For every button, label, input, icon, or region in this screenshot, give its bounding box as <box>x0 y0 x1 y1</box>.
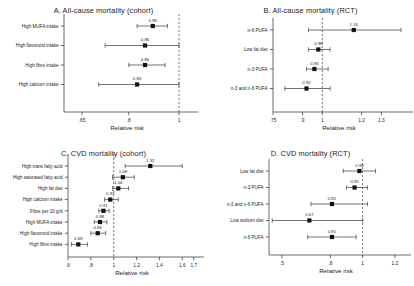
point-estimate-marker <box>76 242 80 246</box>
point-estimate-marker <box>101 209 105 213</box>
row-label: High calcium intake <box>23 197 63 202</box>
point-estimate-label: 0.89 <box>149 18 158 23</box>
row-label: High flavonoid intake <box>16 43 59 48</box>
point-estimate-marker <box>312 67 316 71</box>
point-estimate-label: 1.08 <box>119 169 128 174</box>
panel-b-plot: .75.911.21.3Relative riskn-6 PUFA1.16Low… <box>207 0 414 143</box>
point-estimate-marker <box>121 175 125 179</box>
point-estimate-marker <box>108 198 112 202</box>
point-estimate-label: 0.81 <box>328 196 337 201</box>
row-label: n-3 PUFA <box>244 185 265 190</box>
point-estimate-marker <box>352 185 356 189</box>
point-estimate-marker <box>330 235 334 239</box>
point-estimate-marker <box>98 220 102 224</box>
point-estimate-label: 0.88 <box>96 214 105 219</box>
point-estimate-marker <box>96 231 100 235</box>
row-label: Fibre per 10 g/d <box>30 209 63 214</box>
x-axis-tick-label: .8 <box>328 261 332 266</box>
row-label: Low sodium diet <box>230 218 264 223</box>
point-estimate-label: 0.69 <box>74 236 83 241</box>
x-axis-tick-label: .75 <box>270 118 277 123</box>
x-axis-tick-label: .65 <box>79 118 86 123</box>
point-estimate-label: 0.67 <box>305 212 314 217</box>
row-label: High fibre intake <box>25 63 59 68</box>
point-estimate-marker <box>143 63 147 67</box>
x-axis-tick-label: 1.2 <box>392 261 399 266</box>
point-estimate-label: 0.96 <box>310 61 319 66</box>
row-label: High MUFA intake <box>22 24 59 29</box>
point-estimate-marker <box>316 47 320 51</box>
row-label: n-6 PUFA <box>244 235 265 240</box>
row-label: n-6 PUFA <box>248 28 269 33</box>
point-estimate-marker <box>151 24 155 28</box>
point-estimate-label: 1.04 <box>114 180 123 185</box>
point-estimate-label: 0.86 <box>94 225 103 230</box>
point-estimate-label: 0.86 <box>141 37 150 42</box>
row-label: Low fat diet <box>240 169 264 174</box>
panel-a: A. All-cause mortality (cohort) .65.81Re… <box>0 0 207 143</box>
point-estimate-label: 0.91 <box>99 203 108 208</box>
x-axis-tick-label: .8 <box>89 263 93 268</box>
row-label: High fat diet <box>38 186 63 191</box>
x-axis-tick-label: .6 <box>66 263 70 268</box>
point-estimate-marker <box>357 169 361 173</box>
x-axis-tick-label: 1.3 <box>378 118 385 123</box>
point-estimate-label: 0.98 <box>355 163 364 168</box>
row-label: High trans fatty acid <box>22 164 63 169</box>
x-axis-tick-label: .9 <box>301 118 305 123</box>
point-estimate-marker <box>307 218 311 222</box>
point-estimate-label: 0.95 <box>350 179 359 184</box>
x-axis-tick-label: 1.2 <box>358 118 365 123</box>
panel-c-plot: .6.811.21.41.61.7Relative riskHigh trans… <box>0 143 207 286</box>
row-label: High MUFA intake <box>26 220 63 225</box>
point-estimate-label: 0.98 <box>314 41 323 46</box>
point-estimate-marker <box>352 28 356 32</box>
point-estimate-label: 1.32 <box>146 158 155 163</box>
forest-plot-figure: A. All-cause mortality (cohort) .65.81Re… <box>0 0 414 286</box>
point-estimate-marker <box>304 86 308 90</box>
x-axis-tick-label: 1 <box>112 263 115 268</box>
point-estimate-label: 0.81 <box>328 229 337 234</box>
row-label: n-3 and n-6 PUFA <box>231 86 269 91</box>
row-label: High flavonoid intake <box>20 231 63 236</box>
x-axis-tick-label: .8 <box>127 118 131 123</box>
panel-b: B. All-cause mortality (RCT) .75.911.21.… <box>207 0 414 143</box>
x-axis-tick-label: 1.4 <box>156 263 163 268</box>
point-estimate-label: 0.97 <box>106 191 115 196</box>
point-estimate-label: 0.86 <box>141 57 150 62</box>
panel-c: C. CVD mortality (cohort) .6.811.21.41.6… <box>0 143 207 286</box>
point-estimate-marker <box>148 164 152 168</box>
x-axis-tick-label: 1 <box>321 118 324 123</box>
x-axis-title: Relative risk <box>322 124 357 131</box>
row-label: n-3 and n-6 PUFA <box>227 202 265 207</box>
x-axis-tick-label: .5 <box>280 261 284 266</box>
x-axis-title: Relative risk <box>319 267 354 274</box>
x-axis-tick-label: 1.7 <box>190 263 197 268</box>
point-estimate-marker <box>116 186 120 190</box>
row-label: High fibre intake <box>29 242 63 247</box>
point-estimate-marker <box>135 82 139 86</box>
row-label: n-3 PUFA <box>248 67 269 72</box>
x-axis-title: Relative risk <box>115 269 150 276</box>
point-estimate-label: 0.83 <box>133 76 142 81</box>
panel-d: D. CVD mortality (RCT) .5.811.2Relative … <box>207 143 414 286</box>
point-estimate-marker <box>330 202 334 206</box>
x-axis-tick-label: 1.6 <box>179 263 186 268</box>
point-estimate-marker <box>143 43 147 47</box>
point-estimate-label: 0.92 <box>302 80 311 85</box>
point-estimate-label: 1.16 <box>350 22 359 27</box>
x-axis-title: Relative risk <box>110 124 145 131</box>
panel-d-plot: .5.811.2Relative riskLow fat diet0.98n-3… <box>207 143 414 286</box>
row-label: High calcium intake <box>19 82 59 87</box>
row-label: High saturated fatty acid <box>13 175 63 180</box>
row-label: Low fat diet <box>244 47 268 52</box>
x-axis-tick-label: 1.2 <box>133 263 140 268</box>
x-axis-tick-label: 1 <box>178 118 181 123</box>
x-axis-tick-label: 1 <box>361 261 364 266</box>
panel-a-plot: .65.81Relative riskHigh MUFA intake0.89H… <box>0 0 207 143</box>
